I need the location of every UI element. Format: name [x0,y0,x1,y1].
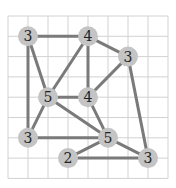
graph-node: 3 [138,148,158,168]
node-label: 4 [84,89,93,105]
node-label: 5 [104,130,113,146]
graph-node: 4 [78,26,98,46]
node-label: 3 [124,49,133,65]
graph-node: 5 [38,87,58,107]
node-label: 3 [24,28,33,44]
node-label: 5 [44,89,53,105]
node-label: 2 [64,150,73,166]
graph-node: 4 [78,87,98,107]
graph-node: 3 [18,26,38,46]
node-label: 3 [24,130,33,146]
node-label: 3 [144,150,153,166]
graph-node: 2 [58,148,78,168]
graph-node: 5 [98,128,118,148]
edge [128,57,148,159]
graph-node: 3 [118,47,138,67]
graph-node: 3 [18,128,38,148]
node-label: 4 [84,28,93,44]
graph-puzzle: 343543523 [0,0,176,188]
